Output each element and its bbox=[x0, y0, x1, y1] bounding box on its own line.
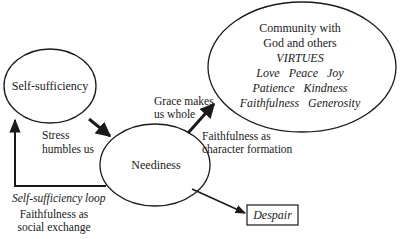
label-stress: Stress humbles us bbox=[42, 129, 95, 155]
svg-text:humbles us: humbles us bbox=[42, 143, 95, 155]
diagram-canvas: Self-sufficiency Neediness Community wit… bbox=[0, 0, 401, 239]
community-line1: Community with bbox=[259, 21, 341, 35]
self-sufficiency-label: Self-sufficiency bbox=[12, 79, 88, 93]
loop-title: Self-sufficiency loop bbox=[12, 192, 106, 205]
svg-text:Faithfulness as: Faithfulness as bbox=[202, 130, 271, 142]
arrow-stress bbox=[89, 119, 110, 136]
node-neediness: Neediness bbox=[100, 124, 210, 206]
node-despair: Despair bbox=[247, 205, 298, 225]
svg-text:us whole: us whole bbox=[154, 108, 195, 120]
virtues-row3: Faithfulness Generosity bbox=[239, 96, 361, 110]
node-self-sufficiency: Self-sufficiency bbox=[4, 49, 96, 123]
label-loop: Self-sufficiency loop Faithfulness as so… bbox=[12, 192, 106, 234]
neediness-label: Neediness bbox=[131, 158, 181, 172]
virtues-heading: VIRTUES bbox=[276, 51, 323, 65]
virtues-row2: Patience Kindness bbox=[252, 81, 348, 95]
arrow-despair bbox=[192, 189, 245, 213]
community-line2: God and others bbox=[263, 36, 337, 50]
label-grace: Grace makes us whole bbox=[154, 95, 214, 120]
svg-text:social exchange: social exchange bbox=[17, 221, 90, 234]
virtues-row1: Love Peace Joy bbox=[255, 66, 344, 80]
label-character: Faithfulness as character formation bbox=[202, 130, 293, 155]
svg-text:character formation: character formation bbox=[202, 143, 293, 155]
svg-text:Faithfulness as: Faithfulness as bbox=[20, 208, 89, 220]
despair-label: Despair bbox=[252, 208, 292, 222]
node-community: Community with God and others VIRTUES Lo… bbox=[208, 2, 396, 132]
svg-text:Stress: Stress bbox=[42, 129, 70, 141]
svg-text:Grace makes: Grace makes bbox=[154, 95, 214, 107]
